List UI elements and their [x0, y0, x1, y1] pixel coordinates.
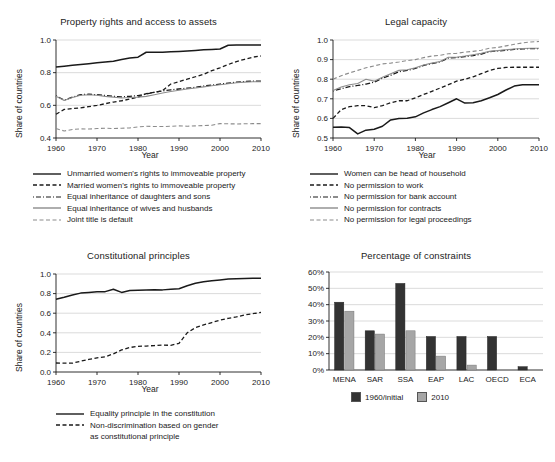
plot-area-property-rights: 0.40.60.81.0196019701980199020002010 — [0, 28, 277, 156]
legend-label: Equality principle in the constitution — [90, 408, 215, 420]
legend-constitutional: Equality principle in the constitution N… — [55, 408, 219, 443]
legend-label: 2010 — [431, 393, 449, 402]
svg-text:0.4: 0.4 — [40, 329, 52, 338]
svg-text:SAR: SAR — [367, 375, 384, 384]
x-axis-label-constitutional: Year — [56, 384, 244, 394]
legend-line-solid-icon — [32, 170, 62, 178]
legend-line-dashed-icon — [309, 181, 339, 189]
svg-text:0.6: 0.6 — [40, 309, 52, 318]
svg-text:EAP: EAP — [428, 375, 444, 384]
legend-line-dashdot-icon — [32, 193, 62, 201]
svg-text:0.2: 0.2 — [40, 348, 52, 357]
svg-text:0.6: 0.6 — [317, 114, 329, 123]
legend-label: No permission for bank account — [344, 191, 457, 203]
legend-line-dashed-gray-icon — [32, 216, 62, 224]
legend-label: Equal inheritance of wives and husbands — [67, 203, 212, 215]
panel-property-rights: Property rights and access to assets Sha… — [0, 0, 277, 231]
legend-item: 1960/initial — [351, 392, 403, 402]
legend-line-dashdot-icon — [309, 193, 339, 201]
plot-area-constraints: 0%10%20%30%40%50%60%MENASARSSAEAPLACOECD… — [277, 262, 555, 390]
legend-label: Joint title is default — [67, 214, 133, 226]
legend-label: Non-discrimination based on gender — [90, 420, 219, 432]
svg-text:40%: 40% — [308, 300, 324, 309]
legend-label: No permission to work — [344, 180, 423, 192]
plot-area-constitutional: 0.00.20.40.60.81.01960197019801990200020… — [0, 262, 277, 390]
svg-text:2010: 2010 — [530, 144, 548, 153]
legend-line-solid-icon — [55, 410, 85, 418]
svg-text:OECD: OECD — [486, 375, 509, 384]
panel-title-percentage-of-constraints: Percentage of constraints — [277, 250, 555, 261]
legend-label: Women can be head of household — [344, 168, 466, 180]
panel-percentage-of-constraints: Percentage of constraints 0%10%20%30%40%… — [277, 236, 555, 462]
plot-area-legal-capacity: 0.50.60.70.80.91.01960197019801990200020… — [277, 28, 555, 156]
panel-title-property-rights: Property rights and access to assets — [0, 16, 277, 27]
svg-text:0.4: 0.4 — [40, 134, 52, 143]
legend-item: Women can be head of household — [309, 168, 472, 180]
svg-text:ECA: ECA — [519, 375, 536, 384]
legend-label: Unmarried women's rights to immoveable p… — [67, 168, 245, 180]
panel-legal-capacity: Legal capacity Share of countries 0.50.6… — [277, 0, 555, 231]
svg-text:0.5: 0.5 — [317, 134, 329, 143]
svg-text:LAC: LAC — [459, 375, 475, 384]
svg-text:0%: 0% — [312, 366, 324, 375]
legend-label: Married women's rights to immoveable pro… — [67, 180, 235, 192]
legend-item: Equality principle in the constitution — [55, 408, 219, 420]
legend-line-dashed-gray-icon — [309, 216, 339, 224]
legend-swatch-2010 — [417, 392, 427, 402]
svg-text:0.8: 0.8 — [40, 68, 52, 77]
svg-text:SSA: SSA — [397, 375, 414, 384]
svg-text:20%: 20% — [308, 333, 324, 342]
x-axis-label-legal-capacity: Year — [333, 150, 521, 160]
legend-label: Equal inheritance of daughters and sons — [67, 191, 210, 203]
legend-item: Equal inheritance of daughters and sons — [32, 191, 245, 203]
legend-item: Joint title is default — [32, 214, 245, 226]
svg-text:1.0: 1.0 — [317, 36, 329, 45]
legend-item: No permission to work — [309, 180, 472, 192]
legend-constraints: 1960/initial 2010 — [351, 392, 449, 402]
svg-text:10%: 10% — [308, 349, 324, 358]
svg-text:0.9: 0.9 — [317, 55, 329, 64]
legend-label: 1960/initial — [365, 393, 403, 402]
legend-item: Equal inheritance of wives and husbands — [32, 203, 245, 215]
legend-line-solid-gray-icon — [32, 204, 62, 212]
legend-label: No permission for contracts — [344, 203, 441, 215]
svg-text:50%: 50% — [308, 284, 324, 293]
svg-text:0.0: 0.0 — [40, 368, 52, 377]
legend-line-dashed-icon — [55, 421, 85, 429]
svg-text:60%: 60% — [308, 268, 324, 277]
x-axis-label-property-rights: Year — [56, 150, 244, 160]
legend-label-continuation: as constitutional principle — [55, 431, 219, 443]
panel-title-constitutional-principles: Constitutional principles — [0, 250, 277, 261]
svg-text:0.8: 0.8 — [40, 289, 52, 298]
legend-item: No permission for contracts — [309, 203, 472, 215]
svg-text:1.0: 1.0 — [40, 36, 52, 45]
legend-item: Unmarried women's rights to immoveable p… — [32, 168, 245, 180]
svg-text:MENA: MENA — [333, 375, 357, 384]
svg-text:0.7: 0.7 — [317, 95, 329, 104]
legend-label: No permission for legal proceedings — [344, 214, 472, 226]
svg-text:30%: 30% — [308, 317, 324, 326]
legend-line-solid-icon — [309, 170, 339, 178]
panel-constitutional-principles: Constitutional principles Share of count… — [0, 236, 277, 462]
svg-text:1.0: 1.0 — [40, 270, 52, 279]
legend-item: 2010 — [417, 392, 449, 402]
legend-line-solid-gray-icon — [309, 204, 339, 212]
panel-title-legal-capacity: Legal capacity — [277, 16, 555, 27]
svg-text:0.6: 0.6 — [40, 101, 52, 110]
legend-item: No permission for bank account — [309, 191, 472, 203]
svg-text:0.8: 0.8 — [317, 75, 329, 84]
legend-line-dashed-icon — [32, 181, 62, 189]
legend-item: Non-discrimination based on gender — [55, 420, 219, 432]
legend-legal-capacity: Women can be head of household No permis… — [309, 168, 472, 226]
legend-swatch-1960-initial — [351, 392, 361, 402]
svg-text:2010: 2010 — [252, 144, 270, 153]
legend-item: Married women's rights to immoveable pro… — [32, 180, 245, 192]
svg-text:2010: 2010 — [252, 378, 270, 387]
legend-property-rights: Unmarried women's rights to immoveable p… — [32, 168, 245, 226]
legend-item: No permission for legal proceedings — [309, 214, 472, 226]
